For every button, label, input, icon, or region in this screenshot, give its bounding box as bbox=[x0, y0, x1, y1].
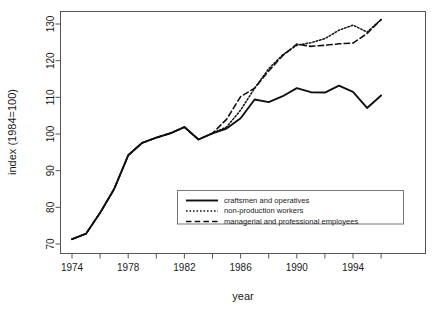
y-axis-ticks bbox=[56, 24, 61, 244]
y-axis-tick-labels: 708090100110120130 bbox=[45, 15, 56, 249]
chart-figure: 708090100110120130 197419781982198619901… bbox=[0, 0, 441, 318]
y-tick-label: 90 bbox=[45, 165, 56, 177]
x-tick-label: 1994 bbox=[342, 262, 365, 273]
y-tick-label: 100 bbox=[45, 125, 56, 142]
y-tick-label: 80 bbox=[45, 201, 56, 213]
x-axis-ticks bbox=[72, 254, 381, 259]
line-chart: 708090100110120130 197419781982198619901… bbox=[0, 0, 441, 318]
x-tick-label: 1986 bbox=[229, 262, 252, 273]
chart-legend: craftsmen and operativesnon-production w… bbox=[178, 191, 404, 226]
x-axis-tick-labels: 197419781982198619901994 bbox=[61, 262, 365, 273]
y-tick-label: 130 bbox=[45, 15, 56, 32]
y-tick-label: 110 bbox=[45, 89, 56, 105]
x-tick-label: 1982 bbox=[173, 262, 196, 273]
legend-label: non-production workers bbox=[224, 206, 304, 215]
y-tick-label: 120 bbox=[45, 52, 56, 69]
legend-label: managerial and professional employees bbox=[224, 217, 358, 226]
x-axis-title: year bbox=[232, 290, 254, 302]
legend-label: craftsmen and operatives bbox=[224, 196, 309, 205]
x-tick-label: 1974 bbox=[61, 262, 84, 273]
y-axis-title: index (1984=100) bbox=[6, 89, 18, 175]
x-tick-label: 1978 bbox=[117, 262, 140, 273]
y-tick-label: 70 bbox=[45, 238, 56, 250]
x-tick-label: 1990 bbox=[286, 262, 309, 273]
